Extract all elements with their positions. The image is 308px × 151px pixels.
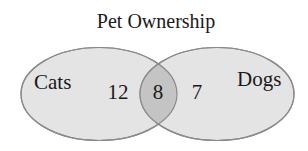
count-intersection: 8: [153, 80, 164, 104]
diagram-title: Pet Ownership: [97, 10, 215, 33]
venn-diagram: Pet Ownership Cats Dogs 12 8 7: [0, 0, 308, 151]
set-label-cats: Cats: [34, 70, 71, 94]
set-label-dogs: Dogs: [237, 67, 281, 91]
count-cats-only: 12: [108, 80, 129, 104]
count-dogs-only: 7: [192, 80, 203, 104]
